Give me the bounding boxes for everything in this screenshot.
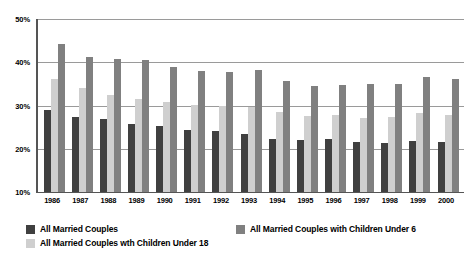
bar-group [434,19,462,192]
bar-group [265,19,293,192]
bar [360,118,367,192]
bar-group [321,19,349,192]
legend-item-all-married-couples: All Married Couples [26,224,118,234]
x-axis-tick-label: 1995 [291,196,319,212]
bar-group [68,19,96,192]
y-axis-tick-label: 30% [0,101,30,110]
legend-swatch-icon [236,225,245,234]
bar [135,99,142,192]
plot-area [36,19,464,193]
bar [283,81,290,192]
legend-swatch-icon [26,225,35,234]
bar-group [124,19,152,192]
bar [423,77,430,192]
bar [72,117,79,192]
bar [44,110,51,192]
bar [367,84,374,192]
chart-legend: All Married Couples All Married Couples … [0,222,474,262]
y-axis: 50%40%30%20%10% [0,0,34,215]
bar-group [209,19,237,192]
bar [170,67,177,192]
bar [128,124,135,192]
x-axis-tick-label: 1998 [376,196,404,212]
x-axis-tick-label: 1999 [404,196,432,212]
bar [325,139,332,192]
bar [86,57,93,192]
bar [156,126,163,192]
bar [79,88,86,192]
bar [416,113,423,192]
bar [226,72,233,192]
bar [445,115,452,192]
bar [276,112,283,192]
bar [248,107,255,192]
x-axis-tick-label: 1991 [179,196,207,212]
bar [438,142,445,192]
y-axis-tick-label: 10% [0,188,30,197]
x-axis-tick-label: 1996 [319,196,347,212]
bar-chart: 50%40%30%20%10% 198619871988198919901991… [0,0,474,271]
x-axis-tick-label: 1994 [263,196,291,212]
bar [100,119,107,192]
bar [269,139,276,192]
bar [191,105,198,192]
bar [163,102,170,192]
y-axis-tick-label: 40% [0,58,30,67]
bar-group [96,19,124,192]
bar [409,141,416,192]
bar-group [153,19,181,192]
x-axis-tick-label: 1987 [66,196,94,212]
legend-item-label: All Married Couples wth Children Under 1… [40,238,208,248]
bar [381,143,388,192]
legend-item-label: All Married Couples [40,224,118,234]
bar-group [237,19,265,192]
x-axis-tick-label: 1988 [94,196,122,212]
legend-swatch-icon [26,239,35,248]
bar [198,71,205,192]
bar [339,85,346,192]
x-axis-tick-label: 1989 [122,196,150,212]
x-axis-tick-label: 2000 [432,196,460,212]
y-axis-tick-label: 50% [0,15,30,24]
bar-group [40,19,68,192]
x-axis-tick-label: 1990 [151,196,179,212]
bar [184,130,191,192]
legend-item-label: All Married Couples with Children Under … [250,224,416,234]
plot-wrapper: 50%40%30%20%10% [0,0,474,215]
bar [255,70,262,192]
x-axis-tick-label: 1986 [38,196,66,212]
bar-group [181,19,209,192]
bars-layer [38,19,464,192]
bar [58,44,65,192]
bar [107,95,114,192]
bar-group [406,19,434,192]
bar-group [293,19,321,192]
x-axis-tick-label: 1992 [207,196,235,212]
x-axis-tick-label: 1997 [348,196,376,212]
legend-item-children-under-6: All Married Couples with Children Under … [236,224,416,234]
bar [353,142,360,192]
bar [388,117,395,192]
bar [304,116,311,192]
bar [142,60,149,192]
bar-group [378,19,406,192]
bar [114,59,121,192]
y-axis-tick-label: 20% [0,144,30,153]
bar [51,79,58,192]
legend-item-children-under-18: All Married Couples wth Children Under 1… [26,238,208,248]
bar [297,140,304,192]
bar [311,86,318,192]
bar [332,115,339,192]
bar [212,131,219,192]
x-axis-tick-label: 1993 [235,196,263,212]
bar [395,84,402,192]
bar-group [350,19,378,192]
x-axis: 1986198719881989199019911992199319941995… [36,196,462,212]
bar [219,106,226,192]
bar [241,134,248,192]
bar [452,79,459,192]
